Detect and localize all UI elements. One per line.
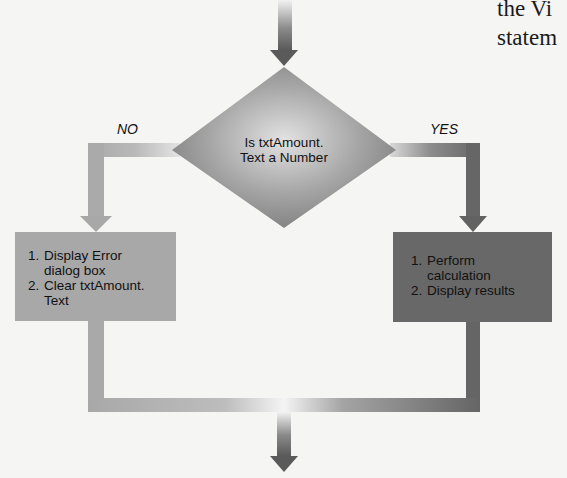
entry-arrow <box>270 0 298 66</box>
yes-branch-label: YES <box>430 121 458 137</box>
flowchart-canvas: NO YES Is txtAmount. Text a Number 1. Di… <box>0 0 567 478</box>
page-text-line2: statem <box>497 23 557 52</box>
page-text-line1: the Vi <box>497 0 552 23</box>
no-branch-connector <box>80 143 180 232</box>
exit-arrow <box>270 412 298 472</box>
decision-text-line1: Is txtAmount. <box>224 135 344 150</box>
yes-branch-connector <box>390 143 487 232</box>
no-box-item: 1. Display Error dialog box <box>28 248 145 278</box>
no-branch-label: NO <box>117 121 138 137</box>
yes-box-item: 2. Display results <box>411 283 515 298</box>
yes-box-text: 1. Perform calculation 2. Display result… <box>411 253 515 298</box>
flowchart-graphic <box>0 0 567 478</box>
no-box-text: 1. Display Error dialog box 2. Clear txt… <box>28 248 145 308</box>
merge-connector <box>88 321 480 412</box>
no-box-item: 2. Clear txtAmount. Text <box>28 278 145 308</box>
decision-text: Is txtAmount. Text a Number <box>224 135 344 165</box>
yes-box-item: 1. Perform calculation <box>411 253 515 283</box>
decision-text-line2: Text a Number <box>224 150 344 165</box>
